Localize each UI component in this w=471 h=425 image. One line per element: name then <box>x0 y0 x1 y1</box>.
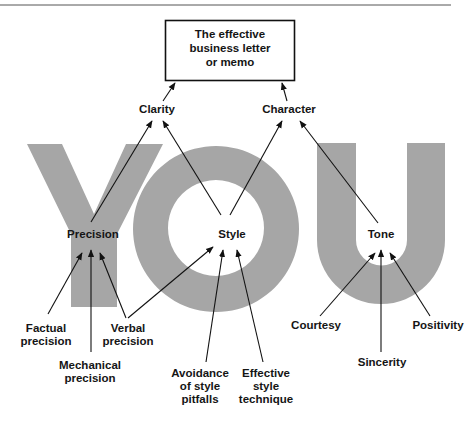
node-courtesy: Courtesy <box>291 319 341 332</box>
node-character: Character <box>262 103 316 116</box>
node-style: Style <box>218 228 246 241</box>
node-avoidance-of-style-pitfalls: Avoidance of style pitfalls <box>171 367 229 406</box>
node-clarity: Clarity <box>139 103 175 116</box>
node-mechanical-precision: Mechanical precision <box>59 359 121 385</box>
node-sincerity: Sincerity <box>358 356 407 369</box>
node-precision: Precision <box>67 228 119 241</box>
node-positivity: Positivity <box>412 319 463 332</box>
node-factual-precision: Factual precision <box>20 322 71 348</box>
node-tone: Tone <box>368 228 395 241</box>
goal-label: The effective business letter or memo <box>166 27 294 69</box>
letter-o <box>133 146 299 312</box>
node-effective-style-technique: Effective style technique <box>239 367 293 406</box>
node-verbal-precision: Verbal precision <box>102 322 153 348</box>
arrow-clarity-goal <box>163 83 175 101</box>
arrow-character-goal <box>282 83 287 101</box>
